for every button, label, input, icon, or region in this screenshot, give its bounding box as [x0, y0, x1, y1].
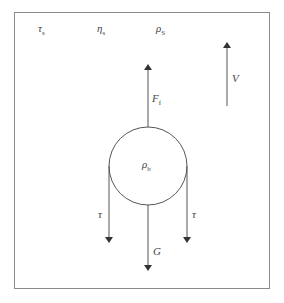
tau-s-label: τs [38, 22, 45, 37]
g-label: G [153, 245, 161, 257]
rho-b-label: ρb [142, 158, 151, 173]
tau-left-label: τ [98, 208, 102, 220]
ff-label: Ff [152, 92, 161, 107]
force-diagram [0, 0, 284, 303]
eta-s-label: ηs [97, 22, 105, 37]
v-label: V [232, 72, 239, 84]
tau-right-label: τ [192, 208, 196, 220]
rho-s-label: ρS [156, 22, 165, 37]
